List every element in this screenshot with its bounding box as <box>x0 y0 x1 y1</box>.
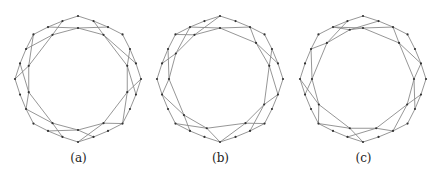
inner-vertex <box>268 65 270 67</box>
chord-edge <box>48 130 78 131</box>
outer-vertex <box>92 136 94 138</box>
inner-vertex <box>51 122 53 124</box>
outer-vertex <box>420 93 422 95</box>
inner-vertex <box>183 114 185 116</box>
inner-vertex <box>326 42 328 44</box>
outer-vertex <box>219 141 221 143</box>
outer-vertex <box>77 141 79 143</box>
outer-vertex <box>189 26 191 28</box>
chord-edge <box>127 66 136 95</box>
chord-edge <box>256 43 278 64</box>
outer-edge <box>33 124 48 131</box>
outer-vertex <box>304 93 306 95</box>
chord-edge <box>414 79 415 109</box>
chord-edge <box>162 95 184 116</box>
inner-vertex <box>175 52 177 54</box>
outer-vertex <box>362 15 364 17</box>
outer-edge <box>300 63 305 79</box>
outer-edge <box>236 131 250 137</box>
chord-edge <box>363 27 393 28</box>
outer-edge <box>278 79 283 95</box>
outer-vertex <box>32 122 34 124</box>
chord-edge <box>78 27 108 28</box>
outer-vertex <box>25 108 27 110</box>
outer-vertex <box>406 122 408 124</box>
outer-vertex <box>32 33 34 35</box>
inner-vertex <box>349 127 351 129</box>
outer-edge <box>265 34 272 49</box>
outer-vertex <box>414 108 416 110</box>
inner-edge <box>169 79 184 115</box>
outer-vertex <box>234 136 236 138</box>
inner-vertex <box>126 65 128 67</box>
outer-edge <box>78 137 94 142</box>
chord-edge <box>220 27 250 28</box>
caption-a: (a) <box>5 151 152 165</box>
inner-vertex <box>311 78 313 80</box>
outer-edge <box>157 79 162 95</box>
inner-edge <box>363 28 399 43</box>
outer-vertex <box>14 78 16 80</box>
inner-edge <box>176 35 195 54</box>
chord-edge <box>414 63 421 79</box>
inner-edge <box>29 92 53 123</box>
outer-vertex <box>77 15 79 17</box>
inner-edge <box>264 66 269 105</box>
outer-edge <box>94 131 108 137</box>
outer-vertex <box>263 122 265 124</box>
outer-vertex <box>135 93 137 95</box>
outer-vertex <box>219 15 221 17</box>
outer-vertex <box>189 130 191 132</box>
outer-vertex <box>25 48 27 50</box>
inner-vertex <box>28 65 30 67</box>
outer-edge <box>333 131 347 137</box>
outer-vertex <box>135 62 137 64</box>
outer-vertex <box>406 33 408 35</box>
outer-edge <box>236 21 250 27</box>
inner-edge <box>104 35 128 66</box>
outer-edge <box>305 95 311 109</box>
outer-vertex <box>346 20 348 22</box>
outer-vertex <box>161 62 163 64</box>
outer-vertex <box>92 20 94 22</box>
panel-a: (a) <box>5 0 152 173</box>
outer-vertex <box>271 108 273 110</box>
inner-vertex <box>168 78 170 80</box>
chord-edge <box>311 49 312 79</box>
outer-edge <box>190 131 204 137</box>
outer-vertex <box>203 20 205 22</box>
outer-vertex <box>310 48 312 50</box>
inner-vertex <box>349 29 351 31</box>
outer-edge <box>108 124 123 131</box>
outer-edge <box>318 27 333 34</box>
outer-edge <box>62 137 78 142</box>
chord-edge <box>347 128 376 137</box>
outer-vertex <box>346 136 348 138</box>
outer-edge <box>157 63 162 79</box>
outer-edge <box>204 16 220 21</box>
outer-edge <box>168 34 175 49</box>
outer-edge <box>168 109 175 124</box>
chord-edge <box>327 21 348 43</box>
inner-vertex <box>244 122 246 124</box>
outer-edge <box>20 49 26 63</box>
inner-edge <box>256 43 269 66</box>
panel-c: (c) <box>290 0 437 173</box>
inner-vertex <box>193 34 195 36</box>
outer-edge <box>78 16 94 21</box>
outer-edge <box>33 27 48 34</box>
outer-vertex <box>263 33 265 35</box>
inner-vertex <box>255 42 257 44</box>
chord-edge <box>26 92 29 109</box>
inner-vertex <box>51 34 53 36</box>
inner-vertex <box>206 127 208 129</box>
outer-vertex <box>47 26 49 28</box>
caption-c: (c) <box>290 151 437 165</box>
outer-vertex <box>61 20 63 22</box>
outer-edge <box>300 79 305 95</box>
inner-vertex <box>318 103 320 105</box>
chord-edge <box>78 123 104 142</box>
inner-edge <box>220 28 256 43</box>
outer-edge <box>347 16 363 21</box>
outer-vertex <box>425 78 427 80</box>
